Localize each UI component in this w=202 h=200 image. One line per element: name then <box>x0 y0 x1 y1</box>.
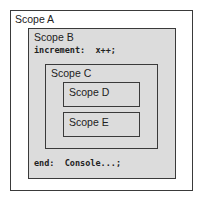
scope-e-label: Scope E <box>69 116 109 128</box>
increment-code-line: increment: x++; <box>34 45 116 55</box>
scope-c-label: Scope C <box>51 67 91 79</box>
scope-a-label: Scope A <box>15 13 54 25</box>
scope-d-label: Scope D <box>69 86 109 98</box>
scope-b-label: Scope B <box>34 31 74 43</box>
end-code-line: end: Console...; <box>34 158 121 168</box>
